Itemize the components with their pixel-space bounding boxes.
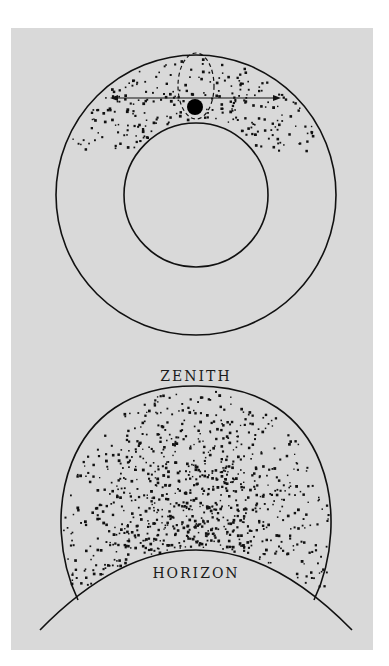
- arrow-right-icon: [273, 95, 281, 101]
- particle-dots-dome: [63, 391, 330, 588]
- zenith-label: ZENITH: [160, 368, 231, 384]
- observer-sphere: [187, 99, 203, 115]
- horizon-arc: [40, 550, 352, 630]
- horizon-label: HORIZON: [152, 565, 239, 581]
- earth-atmosphere-diagram: [56, 53, 336, 335]
- figure-svg: ZENITH HORIZON: [0, 0, 389, 666]
- atmosphere-outer-circle: [56, 55, 336, 335]
- sky-dome-diagram: ZENITH HORIZON: [40, 368, 352, 630]
- earth-circle: [124, 123, 268, 267]
